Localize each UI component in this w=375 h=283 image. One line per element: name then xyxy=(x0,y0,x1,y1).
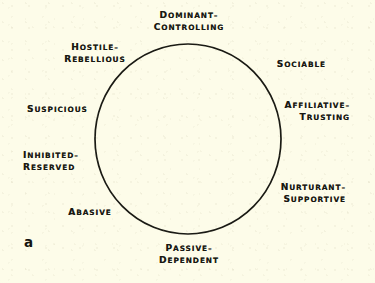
figure-letter: a xyxy=(24,236,33,250)
label-hostile-rebellious: Hostile–Rebellious xyxy=(62,42,128,65)
label-passive-dependent: Passive–Dependent xyxy=(150,243,228,266)
label-dominant-controlling: Dominant–Controlling xyxy=(150,10,228,33)
circumplex-circle-svg xyxy=(0,0,375,283)
label-affiliative-trusting: Affiliative–Trusting xyxy=(272,100,350,123)
circumplex-circle xyxy=(95,44,281,234)
label-nurturant-supportive: Nurturant–Supportive xyxy=(272,182,346,205)
label-suspicious: Suspicious xyxy=(27,104,91,116)
label-sociable: Sociable xyxy=(268,59,326,71)
figure-canvas: Dominant–Controlling Hostile–Rebellious … xyxy=(0,0,375,283)
label-inhibited-reserved: Inhibited–Reserved xyxy=(23,150,85,173)
label-abasive: Abasive xyxy=(64,207,116,219)
